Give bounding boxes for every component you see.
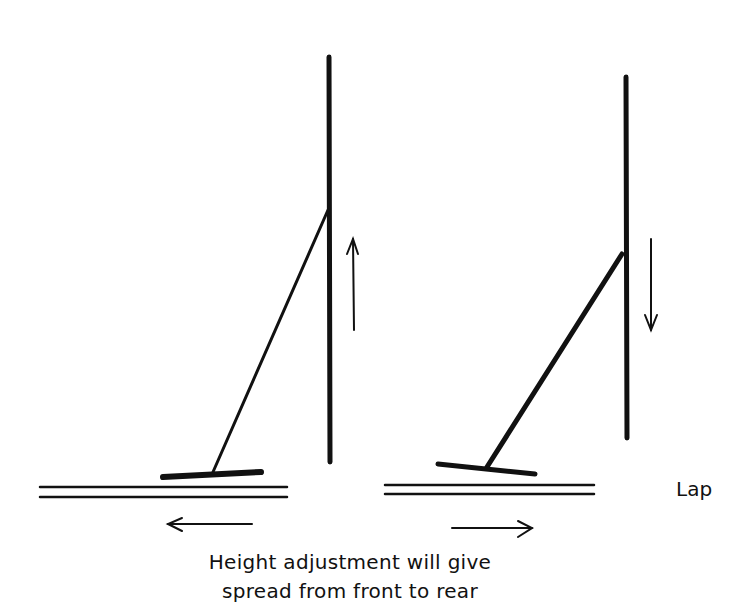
up-arrow-icon (347, 239, 358, 330)
right-arrow-icon (452, 521, 532, 537)
left-strut (213, 210, 328, 472)
right-vertical-pole (626, 77, 627, 438)
lap-label: Lap (676, 477, 712, 501)
left-arrow-icon (168, 518, 252, 531)
right-strut (487, 254, 622, 467)
right-assembly (385, 77, 657, 537)
down-arrow-icon (645, 239, 657, 330)
caption-line-2: spread from front to rear (150, 577, 550, 606)
diagram-canvas (0, 0, 747, 610)
caption-line-1: Height adjustment will give (150, 548, 550, 577)
left-assembly (40, 57, 358, 531)
left-vertical-pole (329, 57, 330, 462)
diagram-caption: Height adjustment will give spread from … (150, 548, 550, 606)
left-foot (163, 472, 261, 477)
